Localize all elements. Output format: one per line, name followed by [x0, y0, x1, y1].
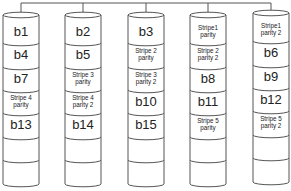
- block: Stripe 5 parity 2: [253, 111, 289, 135]
- block: b4: [3, 43, 39, 67]
- block: Stripe 2 parity: [128, 43, 164, 67]
- block: Stripe1 parity 2: [253, 18, 289, 41]
- block: Stripe 2 parity 2: [190, 43, 226, 67]
- block: b9: [253, 65, 289, 88]
- block-empty: [65, 160, 101, 184]
- block-empty: [3, 137, 39, 160]
- block: b7: [3, 67, 39, 90]
- block: b8: [190, 67, 226, 90]
- block: b5: [65, 43, 101, 67]
- block: Stripe 5 parity: [190, 113, 226, 137]
- block-empty: [190, 160, 226, 184]
- block: b10: [128, 90, 164, 113]
- block-empty: [253, 158, 289, 182]
- block: b2: [65, 20, 101, 43]
- block: b1: [3, 20, 39, 43]
- block: Stripe 3 parity: [65, 67, 101, 90]
- block: b3: [128, 20, 164, 43]
- block: b6: [253, 41, 289, 65]
- block-empty: [65, 137, 101, 160]
- block: Stripe1 parity: [190, 20, 226, 43]
- block: Stripe 4 parity: [3, 90, 39, 113]
- block-empty: [128, 160, 164, 184]
- block: b13: [3, 113, 39, 137]
- block: Stripe 4 parity 2: [65, 90, 101, 113]
- block-empty: [253, 135, 289, 158]
- block-empty: [3, 160, 39, 184]
- block: b14: [65, 113, 101, 137]
- block-empty: [190, 137, 226, 160]
- block: Stripe 3 parity 2: [128, 67, 164, 90]
- block: b15: [128, 113, 164, 137]
- block: b12: [253, 88, 289, 111]
- raid6-diagram: b1 b4 b7 Stripe 4 parity b13 b2 b5 Strip…: [0, 0, 291, 191]
- block: b11: [190, 90, 226, 113]
- block-empty: [128, 137, 164, 160]
